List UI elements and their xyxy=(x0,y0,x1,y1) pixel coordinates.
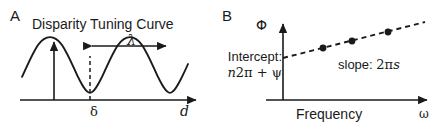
panel-a: A Disparity Tuning Curve λ δ d xyxy=(0,0,218,128)
panel-b: B Φ Intercept: n2π + ψ slope: 2πs Freque… xyxy=(218,0,435,128)
panel-b-plot xyxy=(218,0,435,128)
data-point xyxy=(349,38,356,45)
data-point xyxy=(385,29,392,36)
figure-root: A Disparity Tuning Curve λ δ d xyxy=(0,0,435,128)
data-point xyxy=(320,45,327,52)
panel-a-plot xyxy=(0,0,218,128)
